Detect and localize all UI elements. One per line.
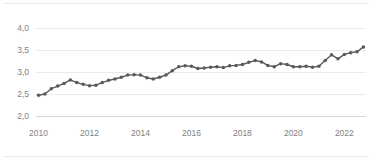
x-axis-tick-label: 2016 [182, 128, 201, 138]
data-point-marker [69, 78, 73, 82]
data-point-marker [120, 76, 124, 80]
data-point-marker [215, 65, 219, 69]
y-axis-tick-label: 2,5 [17, 89, 29, 99]
data-point-marker [349, 51, 353, 55]
data-point-marker [355, 50, 359, 54]
data-point-marker [94, 83, 98, 87]
data-point-marker [234, 64, 238, 68]
x-axis-tick-labels: 2010201220142016201820202022 [29, 128, 354, 138]
x-axis-tick-label: 2010 [29, 128, 48, 138]
x-axis-tick-label: 2020 [284, 128, 303, 138]
data-point-marker [56, 84, 60, 88]
data-point-marker [164, 73, 168, 77]
x-axis-tick-label: 2014 [131, 128, 150, 138]
data-point-marker [228, 64, 232, 68]
y-axis-tick-labels: 2,02,53,03,54,0 [17, 23, 29, 121]
y-axis-tick-label: 3,0 [17, 67, 29, 77]
data-point-marker [132, 73, 136, 77]
data-point-marker [177, 65, 181, 69]
line-chart: 2,02,53,03,54,0 201020122014201620182020… [0, 0, 373, 165]
data-point-marker [202, 66, 206, 70]
data-point-marker [158, 76, 162, 80]
y-axis-tick-label: 3,5 [17, 45, 29, 55]
data-point-marker [43, 92, 47, 96]
data-point-markers [37, 45, 365, 97]
data-point-marker [113, 77, 117, 81]
data-point-marker [183, 64, 187, 68]
data-point-marker [304, 65, 308, 69]
series-polyline [39, 47, 364, 95]
x-axis-tick-label: 2012 [80, 128, 99, 138]
y-axis-tick-label: 4,0 [17, 23, 29, 33]
data-point-marker [241, 63, 245, 67]
data-point-marker [88, 84, 92, 88]
data-point-marker [81, 83, 85, 87]
x-axis-tick-label: 2022 [335, 128, 354, 138]
data-point-marker [196, 67, 200, 71]
data-point-marker [171, 69, 175, 73]
data-point-marker [222, 66, 226, 70]
data-point-marker [253, 59, 257, 63]
data-point-marker [247, 61, 251, 65]
data-point-marker [151, 77, 155, 81]
data-point-marker [107, 79, 111, 83]
data-series-line [39, 47, 364, 95]
data-point-marker [62, 82, 66, 86]
data-point-marker [209, 65, 213, 69]
chart-card: 2,02,53,03,54,0 201020122014201620182020… [0, 0, 373, 165]
data-point-marker [362, 45, 366, 49]
data-point-marker [323, 59, 327, 63]
data-point-marker [285, 63, 289, 67]
data-point-marker [292, 65, 296, 69]
data-point-marker [50, 87, 54, 91]
data-point-marker [336, 57, 340, 61]
data-point-marker [126, 73, 129, 77]
data-point-marker [139, 73, 143, 77]
data-point-marker [273, 65, 277, 69]
data-point-marker [279, 62, 283, 66]
gridlines [36, 29, 366, 117]
data-point-marker [260, 60, 264, 64]
y-axis-tick-label: 2,0 [17, 111, 29, 121]
x-axis-tick-label: 2018 [233, 128, 252, 138]
data-point-marker [311, 65, 315, 69]
data-point-marker [190, 65, 194, 69]
data-point-marker [101, 81, 105, 85]
data-point-marker [317, 65, 321, 69]
data-point-marker [75, 81, 79, 85]
data-point-marker [298, 65, 302, 69]
data-point-marker [266, 64, 270, 68]
data-point-marker [37, 94, 41, 98]
data-point-marker [343, 53, 347, 57]
data-point-marker [330, 53, 334, 57]
data-point-marker [145, 76, 149, 80]
